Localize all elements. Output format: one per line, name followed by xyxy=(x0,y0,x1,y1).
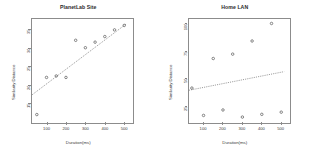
x-tick-mark xyxy=(66,122,67,125)
x-tick-label: 400 xyxy=(253,126,269,131)
y-tick-label: 15 xyxy=(26,104,31,118)
x-tick-label: 200 xyxy=(58,126,74,131)
x-tick-label: 100 xyxy=(39,126,55,131)
x-tick-mark xyxy=(203,122,204,125)
x-tick-label: 400 xyxy=(97,126,113,131)
data-point xyxy=(45,76,48,79)
data-point xyxy=(65,76,68,79)
data-point xyxy=(279,111,282,114)
x-tick-mark xyxy=(47,122,48,125)
chart-panel-homelan: Home LAN Similarity Distance Duration(ms… xyxy=(157,0,314,157)
x-tick-label: 200 xyxy=(214,126,230,131)
x-tick-mark xyxy=(261,122,262,125)
y-tick-label: 75 xyxy=(182,51,187,65)
plot-canvas xyxy=(0,0,157,157)
y-tick-label: 50 xyxy=(182,79,187,93)
regression-line xyxy=(32,24,126,95)
data-point xyxy=(250,40,253,43)
x-tick-mark xyxy=(85,122,86,125)
data-point xyxy=(113,29,116,32)
x-tick-label: 300 xyxy=(234,126,250,131)
y-tick-label: 30 xyxy=(26,48,31,62)
regression-line xyxy=(188,72,283,91)
figure-container: PlanetLab Site Similarity Distance Durat… xyxy=(0,0,313,157)
x-tick-mark xyxy=(222,122,223,125)
x-tick-label: 500 xyxy=(116,126,132,131)
x-tick-mark xyxy=(105,122,106,125)
x-tick-mark xyxy=(242,122,243,125)
data-point xyxy=(104,35,107,38)
y-tick-label: 25 xyxy=(26,67,31,81)
y-tick-label: 100 xyxy=(182,24,187,38)
data-point xyxy=(190,87,193,90)
chart-panel-planetlab: PlanetLab Site Similarity Distance Durat… xyxy=(0,0,157,157)
plot-canvas xyxy=(157,0,314,157)
y-tick-label: 20 xyxy=(26,85,31,99)
data-point xyxy=(221,109,224,112)
x-tick-label: 100 xyxy=(195,126,211,131)
x-tick-mark xyxy=(124,122,125,125)
y-tick-label: 35 xyxy=(26,30,31,44)
data-point xyxy=(74,39,77,42)
x-tick-label: 500 xyxy=(273,126,289,131)
data-point xyxy=(231,53,234,56)
data-point xyxy=(241,116,244,119)
x-tick-mark xyxy=(281,122,282,125)
x-tick-label: 300 xyxy=(77,126,93,131)
data-point xyxy=(202,114,205,117)
y-tick-label: 25 xyxy=(182,106,187,120)
data-point xyxy=(94,41,97,44)
data-point xyxy=(212,57,215,60)
data-point xyxy=(84,46,87,49)
data-point xyxy=(36,113,39,116)
data-point xyxy=(260,113,263,116)
data-point xyxy=(270,22,273,25)
